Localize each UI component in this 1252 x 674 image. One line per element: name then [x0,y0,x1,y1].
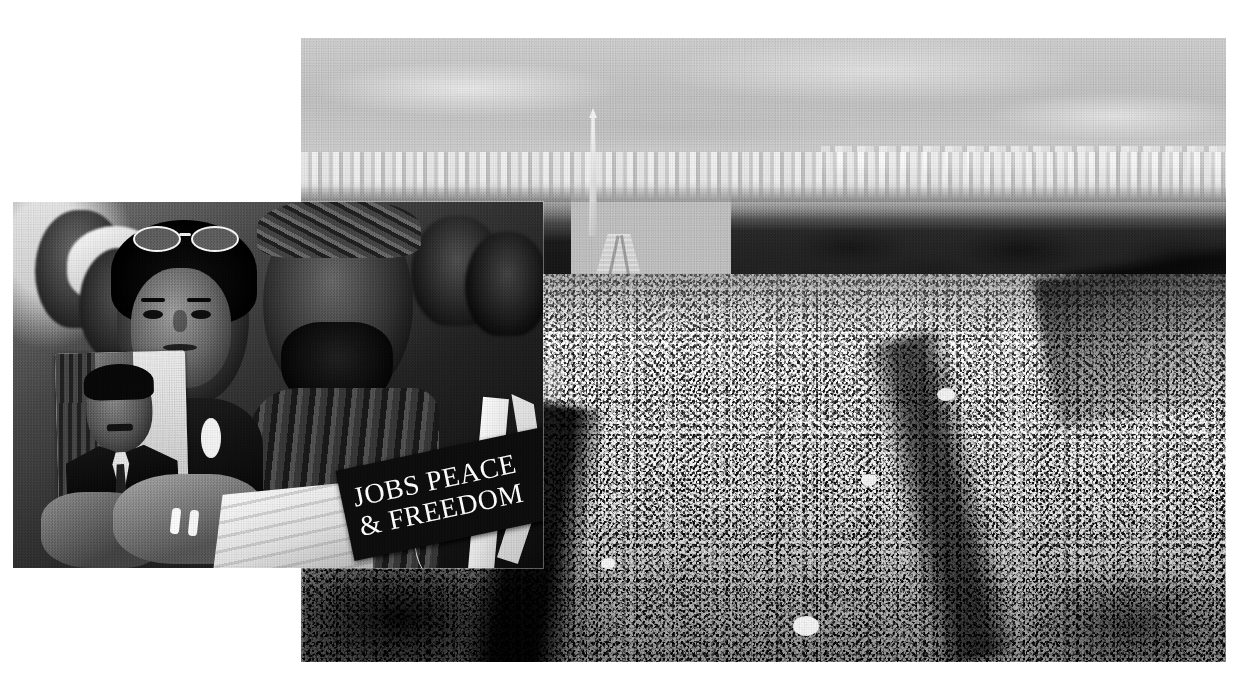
mlk-moustache [107,424,133,432]
tent-highlight-4 [937,388,955,401]
sunglasses-bridge [179,233,191,236]
photo-montage-canvas: JOBS PEACE & FREEDOM March on Washington… [0,0,1252,674]
woman-brow-right [187,298,211,302]
tent-highlight-1 [793,616,819,636]
tent-highlight-3 [601,558,615,569]
mlk-hair [83,363,154,401]
woman-eye-right [191,310,211,319]
crowd-dark-area-bottom-right [1001,558,1226,662]
sunglasses-lens-left [133,226,181,252]
background-figure-far-right-2 [465,232,543,336]
woman-nose [173,310,187,332]
demonstrators-close-up-photo: JOBS PEACE & FREEDOM [13,202,543,568]
white-collar-detail [201,418,221,458]
head-wrap [257,202,421,258]
tent-highlight-2 [861,474,877,486]
sunglasses-icon [133,224,237,250]
woman-eye-left [143,310,163,319]
sunglasses-lens-right [191,226,239,252]
woman-brow-left [141,298,165,302]
